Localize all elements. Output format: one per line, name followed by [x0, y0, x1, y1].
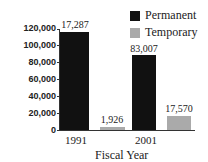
legend-item-permanent: Permanent [130, 8, 196, 23]
bar-permanent-2001 [132, 55, 156, 130]
x-axis-title: Fiscal Year [95, 148, 148, 162]
x-tick: 2001 [126, 134, 166, 146]
bar-temporary-2001 [167, 116, 191, 130]
value-label: 17,287 [50, 19, 100, 30]
value-label: 83,007 [119, 43, 169, 54]
tick-mark [57, 130, 60, 131]
y-tick: 80,000 [28, 58, 56, 67]
y-tick: 100,000 [23, 41, 56, 50]
x-axis [59, 130, 195, 131]
value-label: 1,926 [87, 114, 137, 125]
value-label: 17,570 [154, 103, 204, 114]
bar-temporary-1991 [100, 127, 125, 130]
legend-swatch-icon [130, 11, 140, 21]
bar-permanent-1991 [60, 32, 89, 130]
legend-swatch-icon [130, 28, 140, 38]
legend-label: Permanent [145, 8, 196, 23]
y-tick: 60,000 [28, 75, 56, 84]
x-tick: 1991 [56, 134, 96, 146]
y-tick: 40,000 [28, 92, 56, 101]
legend-item-temporary: Temporary [130, 25, 197, 40]
legend-label: Temporary [145, 25, 197, 40]
y-tick: 20,000 [28, 109, 56, 118]
